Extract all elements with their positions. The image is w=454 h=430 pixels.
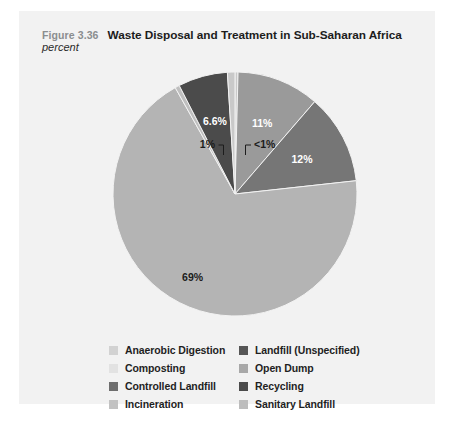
legend-swatch-icon: [239, 400, 248, 409]
legend-label: Anaerobic Digestion: [125, 344, 225, 356]
legend-item-recycling[interactable]: Recycling: [239, 377, 369, 395]
pie-chart: 11%12%69%6.6% 1% <1%: [19, 59, 435, 334]
legend-swatch-icon: [239, 382, 248, 391]
legend-item-sanitary-landfill[interactable]: Sanitary Landfill: [239, 395, 369, 413]
legend-item-composting[interactable]: Composting: [109, 359, 227, 377]
chart-legend: Anaerobic Digestion Landfill (Unspecifie…: [109, 341, 409, 413]
legend-label: Recycling: [255, 380, 304, 392]
legend-item-controlled-landfill[interactable]: Controlled Landfill: [109, 377, 227, 395]
figure-number: Figure 3.36: [42, 29, 99, 41]
legend-item-landfill-unspecified[interactable]: Landfill (Unspecified): [239, 341, 369, 359]
legend-swatch-icon: [239, 364, 248, 373]
legend-item-anaerobic-digestion[interactable]: Anaerobic Digestion: [109, 341, 227, 359]
pie-slice-label: 11%: [252, 117, 273, 129]
legend-swatch-icon: [109, 382, 118, 391]
callout-label-1pct: 1%: [200, 138, 216, 150]
figure-header: Figure 3.36Waste Disposal and Treatment …: [42, 25, 422, 43]
pie-slice-label: 6.6%: [203, 115, 228, 127]
legend-swatch-icon: [109, 346, 118, 355]
legend-label: Controlled Landfill: [125, 380, 216, 392]
figure-subtitle: percent: [42, 41, 79, 53]
callout-label-lt1pct: <1%: [254, 138, 276, 150]
legend-label: Sanitary Landfill: [255, 398, 335, 410]
pie-chart-svg: 11%12%69%6.6% 1% <1%: [19, 59, 435, 334]
pie-slice-label: 69%: [182, 271, 204, 283]
legend-swatch-icon: [239, 346, 248, 355]
legend-label: Open Dump: [255, 362, 314, 374]
legend-swatch-icon: [109, 364, 118, 373]
pie-slices: [113, 72, 357, 316]
pie-slice-label: 12%: [291, 153, 313, 165]
legend-label: Landfill (Unspecified): [255, 344, 360, 356]
figure-panel: Figure 3.36Waste Disposal and Treatment …: [19, 11, 435, 404]
legend-label: Composting: [125, 362, 185, 374]
legend-swatch-icon: [109, 400, 118, 409]
legend-label: Incineration: [125, 398, 183, 410]
legend-item-incineration[interactable]: Incineration: [109, 395, 227, 413]
legend-item-open-dump[interactable]: Open Dump: [239, 359, 369, 377]
figure-title: Waste Disposal and Treatment in Sub-Saha…: [108, 28, 402, 42]
